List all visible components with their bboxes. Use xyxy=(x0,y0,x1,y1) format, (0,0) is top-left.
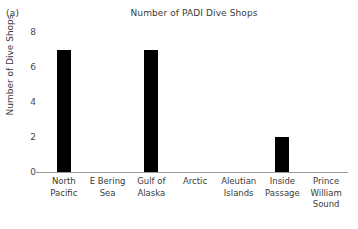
x-tick-label-line: Sound xyxy=(304,199,348,211)
x-tick-label: NorthPacific xyxy=(42,176,86,199)
x-tick-label: AleutianIslands xyxy=(217,176,261,199)
bar[interactable] xyxy=(57,50,71,173)
y-tick-label: 4 xyxy=(12,97,36,107)
y-axis-zero-tick xyxy=(36,172,41,173)
x-tick-label-line: Passage xyxy=(261,188,305,200)
bar-slot xyxy=(304,32,348,172)
bar[interactable] xyxy=(275,137,289,172)
x-axis-line xyxy=(40,172,348,173)
x-tick-label: PrinceWilliamSound xyxy=(304,176,348,211)
y-tick-label: 6 xyxy=(12,62,36,72)
x-tick-label: Gulf ofAlaska xyxy=(129,176,173,199)
bar-slot xyxy=(86,32,130,172)
x-tick-label-line: Arctic xyxy=(173,176,217,188)
bar-slot xyxy=(129,32,173,172)
bar-slot xyxy=(261,32,305,172)
y-axis-tick-labels: 02468 xyxy=(8,0,36,229)
x-tick-label-line: Islands xyxy=(217,188,261,200)
x-tick-label-line: Inside xyxy=(261,176,305,188)
y-tick-label: 8 xyxy=(12,27,36,37)
x-tick-label-line: Gulf of xyxy=(129,176,173,188)
bar[interactable] xyxy=(144,50,158,173)
y-tick-label: 2 xyxy=(12,132,36,142)
bar-slot xyxy=(173,32,217,172)
x-tick-label-line: Prince xyxy=(304,176,348,188)
x-tick-label: E BeringSea xyxy=(86,176,130,199)
bar-slot xyxy=(217,32,261,172)
chart-title: Number of PADI Dive Shops xyxy=(40,8,348,18)
x-tick-label-line: Pacific xyxy=(42,188,86,200)
x-tick-label: InsidePassage xyxy=(261,176,305,199)
x-tick-label-line: Aleutian xyxy=(217,176,261,188)
x-tick-label: Arctic xyxy=(173,176,217,188)
plot-area xyxy=(42,32,348,172)
x-tick-label-line: North xyxy=(42,176,86,188)
x-tick-label-line: Alaska xyxy=(129,188,173,200)
y-tick-label: 0 xyxy=(12,167,36,177)
figure-panel: (a) Number of PADI Dive Shops Number of … xyxy=(0,0,358,229)
x-tick-label-line: William xyxy=(304,188,348,200)
x-tick-label-line: E Bering xyxy=(86,176,130,188)
x-axis-tick-labels: NorthPacificE BeringSeaGulf ofAlaskaArct… xyxy=(42,176,348,228)
bar-slot xyxy=(42,32,86,172)
x-tick-label-line: Sea xyxy=(86,188,130,200)
